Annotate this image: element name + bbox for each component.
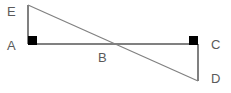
geometry-figure: E A B C D xyxy=(0,0,231,93)
right-angle-marker-c xyxy=(189,36,198,45)
right-angle-marker-a xyxy=(28,36,37,45)
vertex-label-d: D xyxy=(211,72,221,85)
figure-canvas xyxy=(0,0,231,93)
segment-ed xyxy=(28,5,198,81)
vertex-label-e: E xyxy=(7,5,16,18)
vertex-label-a: A xyxy=(7,39,16,52)
vertex-label-b: B xyxy=(98,51,107,64)
vertex-label-c: C xyxy=(211,38,221,51)
